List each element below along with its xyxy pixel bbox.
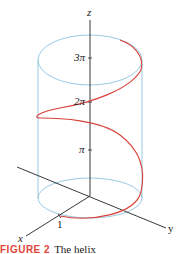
figure-caption-text: The helix <box>54 243 96 254</box>
axes <box>17 20 166 236</box>
tick-label-3pi: 3π <box>73 51 86 63</box>
tick-label-pi: π <box>79 143 85 155</box>
y-axis <box>17 167 166 228</box>
helix-figure: z 3π 2π π 1 y x <box>0 0 179 254</box>
x-axis <box>26 196 90 236</box>
z-axis-label: z <box>86 6 92 18</box>
tick-label-2pi: 2π <box>74 95 86 107</box>
tick-label-1: 1 <box>57 218 63 230</box>
figure-caption: FIGURE 2The helix <box>0 243 96 254</box>
figure-number: FIGURE 2 <box>0 244 50 254</box>
y-axis-label: y <box>168 222 174 234</box>
